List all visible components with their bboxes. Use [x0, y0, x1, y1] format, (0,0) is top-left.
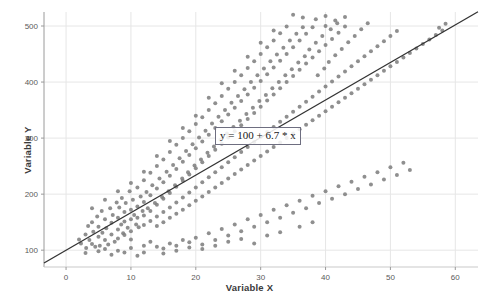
- svg-text:60: 60: [451, 273, 460, 282]
- plot-canvas: 0102030405060100200300400500: [0, 0, 499, 301]
- svg-text:500: 500: [25, 22, 39, 31]
- svg-text:30: 30: [256, 273, 265, 282]
- x-axis-title: Variable X: [0, 282, 499, 293]
- svg-text:100: 100: [25, 246, 39, 255]
- svg-text:40: 40: [321, 273, 330, 282]
- trendline-equation-label: y = 100 + 6.7 * x: [215, 127, 301, 145]
- svg-text:0: 0: [64, 273, 69, 282]
- svg-text:200: 200: [25, 190, 39, 199]
- scatter-chart: 0102030405060100200300400500 Variable Y …: [0, 0, 499, 301]
- y-axis-title: Variable Y: [22, 126, 33, 173]
- svg-text:50: 50: [386, 273, 395, 282]
- svg-text:20: 20: [191, 273, 200, 282]
- svg-text:10: 10: [126, 273, 135, 282]
- svg-text:400: 400: [25, 78, 39, 87]
